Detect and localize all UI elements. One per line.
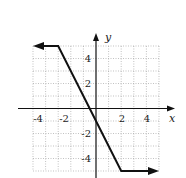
y-tick--2: -2 [81,128,91,139]
left-arrow-icon [33,42,44,50]
x-axis-label: x [169,112,176,125]
axes [18,38,170,178]
y-axis-arrow-icon [93,33,99,41]
y-tick--4: -4 [81,153,91,164]
y-tick-4: 4 [85,53,91,64]
x-tick--2: -2 [59,113,69,124]
graph: x y -4 -2 2 4 4 2 -2 -4 [0,0,186,178]
x-tick-2: 2 [119,113,125,124]
y-tick-2: 2 [85,78,91,89]
x-tick--4: -4 [33,113,43,124]
y-axis-label: y [104,31,112,44]
x-axis-arrow-icon [167,106,175,112]
right-arrow-icon [148,167,159,175]
x-tick-4: 4 [144,113,150,124]
